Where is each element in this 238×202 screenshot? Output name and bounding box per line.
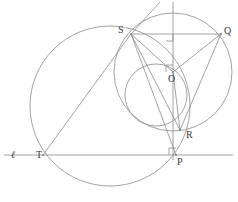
label-point-t: T	[36, 150, 42, 160]
geometry-diagram: ℓTSQORP	[0, 0, 238, 202]
segment-ST	[43, 34, 131, 155]
label-point-s: S	[118, 25, 124, 35]
point-marker-t	[42, 154, 44, 156]
segments-group	[43, 2, 221, 155]
segment-OQ	[173, 34, 221, 72]
circle-large-through-S-T-R	[30, 26, 190, 186]
label-point-q: Q	[224, 26, 231, 36]
right-angle-marker-at-L	[166, 34, 173, 41]
label-point-p: P	[177, 157, 183, 167]
right-angle-markers-group	[166, 34, 176, 155]
segment-tangent-at-S	[131, 2, 160, 34]
circle-small-through-S-O-R-P	[125, 64, 187, 126]
label-point-o: O	[168, 74, 175, 84]
segment-SO	[131, 34, 173, 72]
circles-group	[30, 13, 232, 186]
label-point-r: R	[186, 130, 193, 140]
point-marker-r	[179, 129, 181, 131]
point-marker-q	[220, 33, 222, 35]
point-marker-s	[130, 33, 132, 35]
label-line-ell: ℓ	[11, 150, 15, 160]
